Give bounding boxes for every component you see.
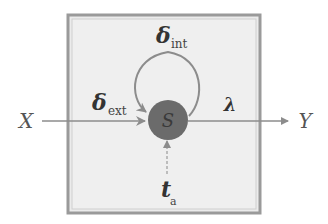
output-function-symbol: λ	[223, 94, 237, 115]
internal-transition-symbol: δ	[155, 22, 171, 48]
external-transition-subscript: ext	[108, 104, 127, 118]
input-label: X	[17, 109, 34, 133]
internal-transition-subscript: int	[171, 37, 188, 51]
external-transition-symbol: δ	[91, 89, 107, 115]
devs-diagram: S X Y δ ext δ int λ t a	[0, 0, 328, 224]
state-label: S	[162, 110, 174, 131]
time-advance-subscript: a	[170, 195, 177, 208]
output-label: Y	[298, 109, 313, 133]
